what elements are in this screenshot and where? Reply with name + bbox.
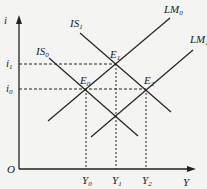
e0-label: E0 <box>79 74 91 88</box>
origin-label: O <box>7 163 15 175</box>
x-axis-label: Y <box>183 176 191 188</box>
curves <box>48 18 193 137</box>
i1-label: i1 <box>6 57 13 71</box>
is-lm-diagram: i Y O IS0IS1LM0LM1 E0E1E2 i1i0 Y0Y1Y2 <box>0 0 207 189</box>
y-axis-label: i <box>4 14 7 26</box>
equilibrium-labels: E0E1E2 <box>79 48 155 88</box>
y-axis-arrow-icon <box>16 15 22 24</box>
is0-label: IS0 <box>35 45 49 59</box>
i0-label: i0 <box>6 82 13 96</box>
is1-curve <box>80 33 171 112</box>
y1-label: Y1 <box>112 174 122 188</box>
is0-curve <box>49 58 138 136</box>
is1-label: IS1 <box>69 17 83 31</box>
curve-labels: IS0IS1LM0LM1 <box>35 3 207 59</box>
lm1-label: LM1 <box>189 33 207 47</box>
y2-label: Y2 <box>142 174 152 188</box>
y-tick-labels: i1i0 <box>6 57 13 96</box>
x-axis-arrow-icon <box>187 166 196 172</box>
lm1-curve <box>91 50 193 137</box>
lm0-label: LM0 <box>163 3 183 17</box>
e1-label: E1 <box>109 48 120 62</box>
y0-label: Y0 <box>82 174 92 188</box>
e2-label: E2 <box>143 74 155 88</box>
x-tick-labels: Y0Y1Y2 <box>82 174 152 188</box>
lm0-curve <box>48 18 170 121</box>
